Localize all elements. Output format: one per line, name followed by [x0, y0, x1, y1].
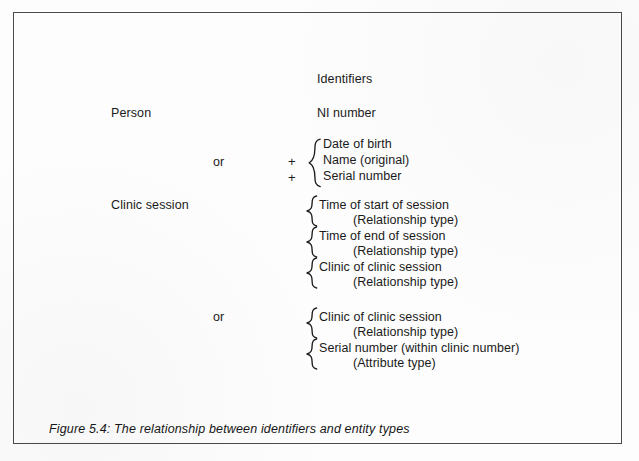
brace-clinic-alternate-2	[305, 338, 319, 370]
brace-clinic-primary-1	[305, 195, 319, 227]
scanned-page: Identifiers Person NI number or + + Date…	[0, 0, 639, 461]
person-alternate-identifier-1: Date of birth	[323, 137, 392, 151]
clinic-alternate-identifier-1: Clinic of clinic session	[319, 310, 442, 324]
person-plus-sign-2: +	[288, 170, 296, 185]
clinic-primary-identifier-3: Clinic of clinic session	[319, 260, 442, 274]
clinic-session-or-label: or	[213, 310, 224, 324]
identifiers-column-header: Identifiers	[317, 72, 372, 86]
clinic-alternate-type-1: (Relationship type)	[319, 325, 458, 339]
brace-clinic-primary-2	[305, 226, 319, 258]
clinic-alternate-identifier-2: Serial number (within clinic number)	[319, 341, 519, 355]
brace-clinic-primary-3	[305, 257, 319, 289]
identifier-diagram: Identifiers Person NI number or + + Date…	[14, 13, 621, 443]
clinic-primary-identifier-2: Time of end of session	[319, 229, 445, 243]
entity-label-clinic-session: Clinic session	[111, 198, 189, 212]
clinic-primary-type-3: (Relationship type)	[319, 275, 458, 289]
figure-caption: Figure 5.4: The relationship between ide…	[49, 422, 410, 436]
person-alternate-identifier-3: Serial number	[323, 169, 401, 183]
person-alternate-identifier-2: Name (original)	[323, 153, 409, 167]
clinic-alternate-type-2: (Attribute type)	[319, 356, 436, 370]
clinic-primary-type-2: (Relationship type)	[319, 244, 458, 258]
brace-clinic-alternate-1	[305, 307, 319, 339]
clinic-primary-identifier-1: Time of start of session	[319, 198, 449, 212]
entity-label-person: Person	[111, 106, 151, 120]
clinic-primary-type-1: (Relationship type)	[319, 213, 458, 227]
figure-frame: Identifiers Person NI number or + + Date…	[13, 12, 622, 444]
person-or-label: or	[213, 155, 224, 169]
person-plus-sign-1: +	[288, 154, 296, 169]
person-primary-identifier: NI number	[317, 106, 376, 120]
brace-person-alternate	[307, 138, 323, 188]
